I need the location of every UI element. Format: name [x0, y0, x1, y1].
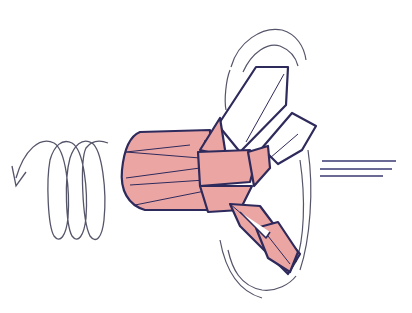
speed-lines-icon [320, 161, 396, 176]
origami-diagram [0, 0, 412, 313]
origami-model [122, 67, 316, 274]
hub [198, 150, 256, 186]
spiral-rotation-arrow-icon [12, 141, 108, 239]
